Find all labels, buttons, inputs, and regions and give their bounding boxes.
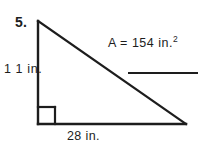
area-value-label: A = 154 in.2	[108, 35, 178, 50]
height-measurement-label: 1 1 in.	[4, 63, 42, 76]
problem-number-label: 5.	[15, 15, 27, 29]
base-measurement-label: 28 in.	[67, 130, 100, 143]
area-exponent-text: 2	[173, 34, 178, 44]
right-triangle-worksheet-figure: 5. 1 1 in. 28 in. A = 154 in.2	[0, 0, 198, 151]
right-angle-marker-icon	[38, 107, 55, 124]
area-value-text: A = 154 in.	[108, 36, 173, 50]
